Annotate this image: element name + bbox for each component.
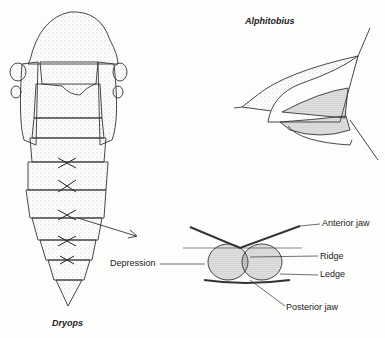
anterior-jaw-label: Anterior jaw — [322, 218, 370, 228]
figure-drawing — [0, 0, 385, 338]
ridge-label: Ridge — [320, 251, 344, 261]
posterior-jaw-label: Posterior jaw — [286, 302, 338, 312]
alphitobius-jaw — [234, 28, 378, 160]
ledge-label: Ledge — [320, 269, 345, 279]
dryops-label: Dryops — [52, 318, 83, 328]
alphitobius-label: Alphitobius — [245, 16, 295, 26]
depression-label: Depression — [110, 258, 156, 268]
